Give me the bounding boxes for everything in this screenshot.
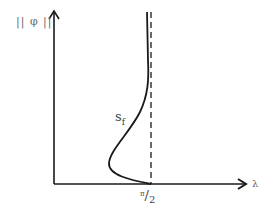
y-axis-label: || φ || [16, 16, 53, 27]
diagram-canvas [0, 0, 272, 220]
curve-label-main: s [115, 109, 122, 124]
x-axis-label: λ [252, 179, 258, 189]
curve-label: sf [115, 110, 125, 127]
curve-label-subscript: f [122, 117, 125, 127]
tick-denominator: 2 [149, 194, 155, 205]
curve-s-f [109, 12, 151, 184]
x-tick-pi-over-2: π/2 [140, 189, 155, 202]
